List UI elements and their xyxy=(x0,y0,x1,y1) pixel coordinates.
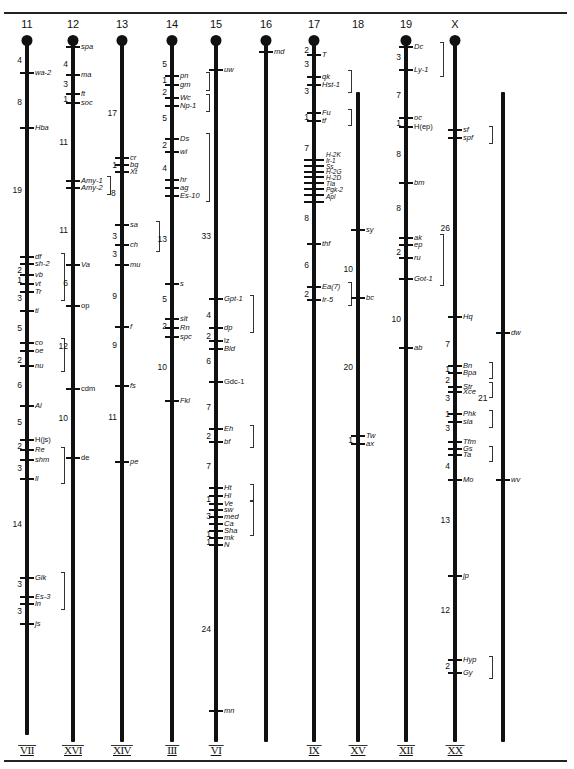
map-distance: 12 xyxy=(441,606,450,615)
locus-label: sa xyxy=(130,221,138,229)
locus-label: tf xyxy=(322,117,326,125)
locus-tick xyxy=(448,129,462,131)
map-distance: 1 xyxy=(112,161,117,170)
map-distance: 2 xyxy=(162,88,167,97)
locus-tick xyxy=(165,283,179,285)
map-distance: 3 xyxy=(17,607,22,616)
locus-tick xyxy=(304,201,324,203)
linkage-group-label: VII xyxy=(20,744,34,756)
locus-tick xyxy=(20,127,34,129)
locus-tick xyxy=(66,305,80,307)
locus-label: ab xyxy=(414,344,422,352)
locus-tick xyxy=(115,326,129,328)
map-distance: 1 xyxy=(206,538,211,547)
map-distance: 6 xyxy=(63,279,68,288)
locus-tick xyxy=(165,195,179,197)
map-distance: 5 xyxy=(162,60,167,69)
map-distance: 2 xyxy=(445,662,450,671)
locus-label: wa-2 xyxy=(35,69,51,77)
locus-group-bracket xyxy=(206,133,210,202)
locus-label: sy xyxy=(366,226,374,234)
locus-tick xyxy=(209,523,223,525)
map-distance: 5 xyxy=(17,324,22,333)
locus-tick xyxy=(165,336,179,338)
map-distance: 26 xyxy=(441,224,450,233)
map-distance: 2 xyxy=(17,266,22,275)
locus-tick xyxy=(209,710,223,712)
locus-tick xyxy=(209,381,223,383)
linkage-group-label: III xyxy=(167,744,177,756)
chromosome-bar xyxy=(120,42,124,742)
locus-group-bracket xyxy=(250,425,254,448)
linkage-group-label: XII xyxy=(399,744,413,756)
locus-tick xyxy=(448,448,462,450)
locus-label: oe xyxy=(35,347,43,355)
linkage-group-label: XX xyxy=(448,744,463,756)
locus-label: Tr xyxy=(35,288,42,296)
map-distance: 2 xyxy=(162,322,167,331)
map-distance: 7 xyxy=(396,91,401,100)
map-distance: 3 xyxy=(17,294,22,303)
locus-label: dw xyxy=(511,329,521,337)
locus-tick xyxy=(20,342,34,344)
map-distance: 2 xyxy=(17,356,22,365)
locus-tick xyxy=(448,137,462,139)
map-distance: 3 xyxy=(445,394,450,403)
locus-label: pe xyxy=(130,458,138,466)
locus-label: ln xyxy=(35,600,41,608)
locus-label: thf xyxy=(322,240,330,248)
locus-label: dp xyxy=(224,324,232,332)
map-distance: 1 xyxy=(348,436,353,445)
chromosome-bar xyxy=(214,42,218,742)
locus-tick xyxy=(448,441,462,443)
locus-tick xyxy=(399,278,413,280)
locus-label: H(ep) xyxy=(414,123,433,131)
locus-label: vb xyxy=(35,271,43,279)
locus-label: sh-2 xyxy=(35,260,50,268)
locus-label: f xyxy=(130,323,132,331)
linkage-group-label: XVI xyxy=(64,744,82,756)
map-distance: 4 xyxy=(162,164,167,173)
locus-label: s xyxy=(180,280,184,288)
locus-label: Gdc-1 xyxy=(224,378,244,386)
locus-group-bracket xyxy=(206,94,210,112)
locus-tick xyxy=(448,672,462,674)
map-distance: 3 xyxy=(17,580,22,589)
locus-tick xyxy=(20,596,34,598)
locus-label: Hba xyxy=(35,124,49,132)
locus-tick xyxy=(165,400,179,402)
locus-label: T xyxy=(322,51,327,59)
locus-group-bracket xyxy=(250,484,254,501)
locus-tick xyxy=(351,297,365,299)
locus-tick xyxy=(209,327,223,329)
locus-label: Ta xyxy=(463,451,471,459)
map-distance: 8 xyxy=(17,98,22,107)
map-distance: 2 xyxy=(17,442,22,451)
locus-label: Es-10 xyxy=(180,192,200,200)
locus-tick xyxy=(209,487,223,489)
locus-tick xyxy=(115,244,129,246)
locus-tick xyxy=(209,441,223,443)
bottom-rule xyxy=(4,760,567,762)
locus-tick xyxy=(448,386,462,388)
chromosome-number: 19 xyxy=(400,18,412,30)
locus-tick xyxy=(399,182,413,184)
locus-label: Gy xyxy=(463,669,473,677)
map-distance: 7 xyxy=(206,403,211,412)
map-distance: 20 xyxy=(344,363,353,372)
locus-tick xyxy=(20,405,34,407)
locus-tick xyxy=(20,350,34,352)
locus-label: Ds xyxy=(180,135,189,143)
locus-label: Mo xyxy=(463,476,473,484)
map-distance: 1 xyxy=(304,113,309,122)
map-distance: 5 xyxy=(17,418,22,427)
locus-group-bracket xyxy=(348,282,352,306)
map-distance: 33 xyxy=(202,232,211,241)
locus-tick xyxy=(20,623,34,625)
chromosome-number: 11 xyxy=(21,18,32,30)
locus-label: ep xyxy=(414,241,422,249)
locus-label: gm xyxy=(180,81,190,89)
map-distance: 3 xyxy=(112,232,117,241)
locus-label: uw xyxy=(224,66,234,74)
map-distance: 6 xyxy=(17,381,22,390)
